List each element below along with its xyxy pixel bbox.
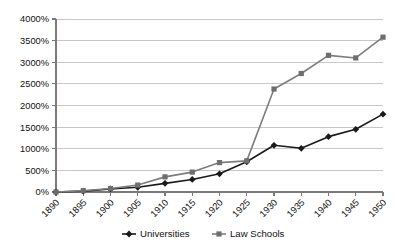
x-tick-label: 1915 bbox=[176, 197, 198, 219]
series-line-lawschools bbox=[56, 37, 383, 192]
legend-label-lawschools: Law Schools bbox=[230, 228, 285, 239]
x-tick-label: 1925 bbox=[230, 197, 252, 219]
legend-item-universities: Universities bbox=[122, 228, 190, 239]
gridlines bbox=[56, 19, 383, 192]
y-tick-label: 500% bbox=[25, 166, 49, 176]
data-series bbox=[53, 35, 387, 196]
chart-legend: UniversitiesLaw Schools bbox=[122, 228, 285, 239]
y-tick-label: 0% bbox=[36, 187, 49, 197]
y-tick-label: 3000% bbox=[20, 58, 49, 68]
x-tick-label: 1950 bbox=[367, 197, 389, 219]
y-tick-label: 2000% bbox=[20, 101, 49, 111]
x-tick-label: 1895 bbox=[67, 197, 89, 219]
y-tick-label: 2500% bbox=[20, 79, 49, 89]
y-tick-label: 1000% bbox=[20, 144, 49, 154]
legend-item-lawschools: Law Schools bbox=[212, 228, 285, 239]
data-point-lawschools bbox=[299, 71, 304, 76]
x-tick-label: 1905 bbox=[121, 197, 143, 219]
data-point-lawschools bbox=[190, 170, 195, 175]
x-tick-label: 1940 bbox=[312, 197, 334, 219]
x-tick-label: 1930 bbox=[258, 197, 280, 219]
data-point-universities bbox=[380, 111, 387, 118]
data-point-universities bbox=[271, 142, 278, 149]
data-point-lawschools bbox=[326, 53, 331, 58]
y-axis-tick-labels: 0%500%1000%1500%2000%2500%3000%3500%4000… bbox=[20, 14, 49, 197]
x-tick-label: 1920 bbox=[203, 197, 225, 219]
data-point-lawschools bbox=[244, 158, 249, 163]
data-point-lawschools bbox=[53, 189, 58, 194]
y-tick-label: 1500% bbox=[20, 123, 49, 133]
data-point-lawschools bbox=[162, 174, 167, 179]
data-point-lawschools bbox=[108, 186, 113, 191]
x-tick-label: 1900 bbox=[94, 197, 116, 219]
x-tick-label: 1945 bbox=[339, 197, 361, 219]
data-point-lawschools bbox=[353, 55, 358, 60]
legend-label-universities: Universities bbox=[140, 228, 190, 239]
data-point-lawschools bbox=[380, 35, 385, 40]
y-tick-label: 3500% bbox=[20, 36, 49, 46]
legend-marker-lawschools bbox=[216, 231, 221, 236]
legend-marker-universities bbox=[126, 231, 133, 238]
data-point-lawschools bbox=[271, 86, 276, 91]
series-line-universities bbox=[56, 114, 383, 192]
data-point-universities bbox=[325, 133, 332, 140]
data-point-lawschools bbox=[217, 160, 222, 165]
growth-line-chart: 0%500%1000%1500%2000%2500%3000%3500%4000… bbox=[0, 0, 394, 250]
x-tick-label: 1935 bbox=[285, 197, 307, 219]
data-point-universities bbox=[162, 180, 169, 187]
y-tick-label: 4000% bbox=[20, 14, 49, 24]
x-tick-label: 1890 bbox=[40, 197, 62, 219]
chart-container: 0%500%1000%1500%2000%2500%3000%3500%4000… bbox=[0, 0, 394, 250]
data-point-universities bbox=[216, 170, 223, 177]
x-axis-tick-labels: 1890189519001905191019151920192519301935… bbox=[40, 197, 389, 219]
data-point-lawschools bbox=[135, 182, 140, 187]
data-point-universities bbox=[298, 145, 305, 152]
x-tick-label: 1910 bbox=[149, 197, 171, 219]
data-point-lawschools bbox=[81, 188, 86, 193]
data-point-universities bbox=[189, 176, 196, 183]
